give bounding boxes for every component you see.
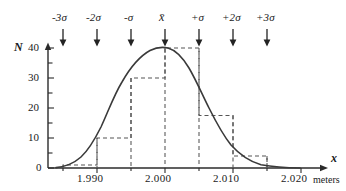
x-tick-label-2000: 2.000: [145, 173, 171, 184]
y-tick-label-0: 0: [36, 162, 42, 173]
y-tick-label-20: 20: [28, 102, 39, 113]
sigma-arrow-plus1sigma: [196, 29, 203, 47]
sigma-arrow-minus3sigma: [60, 29, 67, 47]
x-tick-label-2010: 2.010: [213, 173, 239, 184]
sigma-arrow-group: [60, 29, 271, 47]
histogram-bin-edges: [97, 48, 267, 168]
y-tick-label-30: 30: [28, 72, 39, 83]
x-axis-unit-label: meters: [313, 175, 340, 185]
chart-canvas: [0, 0, 346, 191]
y-axis-ticks: [48, 48, 54, 168]
sigma-label-minus2sigma: -2σ: [86, 12, 101, 23]
sigma-arrow-mean: [162, 29, 169, 47]
chart-figure: -3σ -2σ -σ x̄ +σ +2σ +3σ N 40 30 20 10 0…: [0, 0, 346, 191]
sigma-arrow-plus2sigma: [230, 29, 237, 47]
sigma-label-minus1sigma: -σ: [124, 12, 134, 23]
sigma-label-plus2sigma: +2σ: [222, 12, 241, 23]
sigma-label-mean: x̄: [159, 11, 165, 23]
x-tick-label-2020: 2.020: [281, 173, 307, 184]
y-axis-label: N: [14, 41, 23, 53]
sigma-label-minus3sigma: -3σ: [52, 12, 67, 23]
x-tick-label-1990: 1.990: [77, 173, 103, 184]
sigma-label-plus3sigma: +3σ: [256, 12, 275, 23]
sigma-arrow-minus1sigma: [128, 29, 135, 47]
y-tick-label-40: 40: [28, 42, 39, 53]
y-tick-label-10: 10: [28, 132, 39, 143]
sigma-arrow-plus3sigma: [264, 29, 271, 47]
sigma-arrow-minus2sigma: [94, 29, 101, 47]
x-axis-label: x: [331, 152, 337, 164]
normal-curve: [56, 47, 300, 168]
y-axis: [45, 43, 51, 169]
sigma-label-plus1sigma: +σ: [191, 12, 204, 23]
